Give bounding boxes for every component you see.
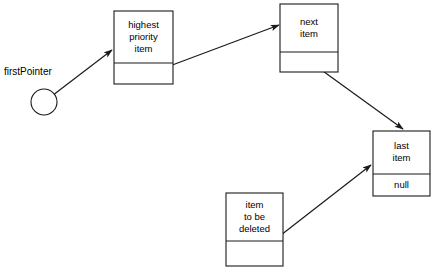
node-link-value: null (394, 179, 409, 190)
node-item-to-be-deleted: itemto bedeleted (226, 193, 283, 266)
pointer-layer: firstPointer (4, 66, 57, 115)
node-label-line: item (135, 43, 153, 54)
node-label-line: item (246, 199, 264, 210)
node-label-line: deleted (239, 223, 270, 234)
node-label-line: next (300, 16, 318, 27)
node-label-line: to be (244, 211, 265, 222)
node-next-item: nextitem (280, 4, 338, 72)
node-label-line: priority (129, 31, 158, 42)
diagram-canvas: highestpriorityitemnextitemlastitemnulli… (0, 0, 437, 267)
node-layer: highestpriorityitemnextitemlastitemnulli… (114, 4, 430, 266)
first-pointer-label: firstPointer (4, 66, 52, 77)
node-label-line: item (300, 28, 318, 39)
first-pointer-circle (31, 89, 57, 115)
node-highest-priority-item: highestpriorityitem (114, 11, 173, 84)
node-last-item: lastitemnull (373, 131, 430, 196)
node-label-line: highest (128, 19, 159, 30)
arrow-layer (44, 25, 403, 256)
linked-list-diagram: highestpriorityitemnextitemlastitemnulli… (0, 0, 437, 267)
node-label-line: item (393, 152, 411, 163)
node-label-line: last (394, 140, 409, 151)
